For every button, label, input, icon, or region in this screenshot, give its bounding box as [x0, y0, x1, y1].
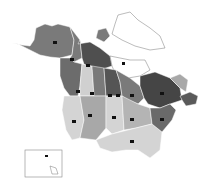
region-us-plains[interactable] [106, 96, 124, 134]
region-arctic-islands[interactable] [112, 12, 165, 50]
region-atlantic-provinces[interactable] [180, 92, 198, 106]
region-us-mountain[interactable] [80, 96, 106, 140]
north-america-map [0, 0, 217, 188]
region-saskatchewan[interactable] [92, 66, 106, 96]
region-arctic-island-small [96, 28, 110, 42]
region-us-west[interactable] [62, 96, 84, 140]
region-alberta[interactable] [80, 64, 94, 96]
region-alaska[interactable] [12, 24, 74, 58]
